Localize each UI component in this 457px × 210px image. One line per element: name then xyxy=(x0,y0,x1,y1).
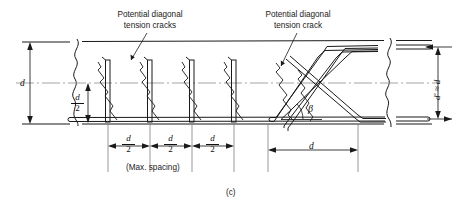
stirrup-spacing-label: d 2 xyxy=(122,134,135,154)
diagonal-crack-group-left xyxy=(98,62,243,120)
figure-container: Potential diagonal tension cracks Potent… xyxy=(0,0,457,210)
left-note-line-1: Potential diagonal xyxy=(117,10,182,19)
bottom-longitudinal-rebar xyxy=(68,117,430,122)
stirrup-spacing-label: d 2 xyxy=(164,134,177,154)
left-note-line-2: tension cracks xyxy=(124,21,176,30)
stirrup-spacing-label: d 2 xyxy=(206,134,219,154)
right-note-line-2: tension crack xyxy=(274,21,322,30)
break-line-right xyxy=(386,38,392,127)
spacing-numerator: d xyxy=(164,134,177,143)
half-depth-denominator: 2 xyxy=(71,104,84,113)
stirrup-group xyxy=(102,57,236,122)
leader-line-left-note xyxy=(131,33,148,60)
max-spacing-note: (Max. spacing) xyxy=(126,163,180,174)
beta-angle-label: β xyxy=(308,103,313,114)
spacing-numerator: d xyxy=(122,134,135,143)
spacing-denominator: 2 xyxy=(122,145,135,154)
overall-depth-label: d xyxy=(20,78,25,88)
figure-caption: (c) xyxy=(226,188,236,197)
spacing-numerator: d xyxy=(206,134,219,143)
spacing-denominator: 2 xyxy=(206,145,219,154)
right-note-label: Potential diagonal tension crack xyxy=(252,10,344,31)
spacing-denominator: 2 xyxy=(164,145,177,154)
half-depth-numerator: d xyxy=(71,93,84,102)
beam-diagram-svg xyxy=(0,0,457,210)
bent-bar-descending xyxy=(286,56,386,122)
half-depth-label: d 2 xyxy=(71,93,84,113)
dimension-half-depth xyxy=(85,83,91,123)
left-note-label: Potential diagonal tension cracks xyxy=(104,10,196,31)
bent-bar-extent-label: d xyxy=(309,141,314,151)
right-depth-label: d' ≈ d xyxy=(432,80,442,100)
right-note-line-1: Potential diagonal xyxy=(265,10,330,19)
